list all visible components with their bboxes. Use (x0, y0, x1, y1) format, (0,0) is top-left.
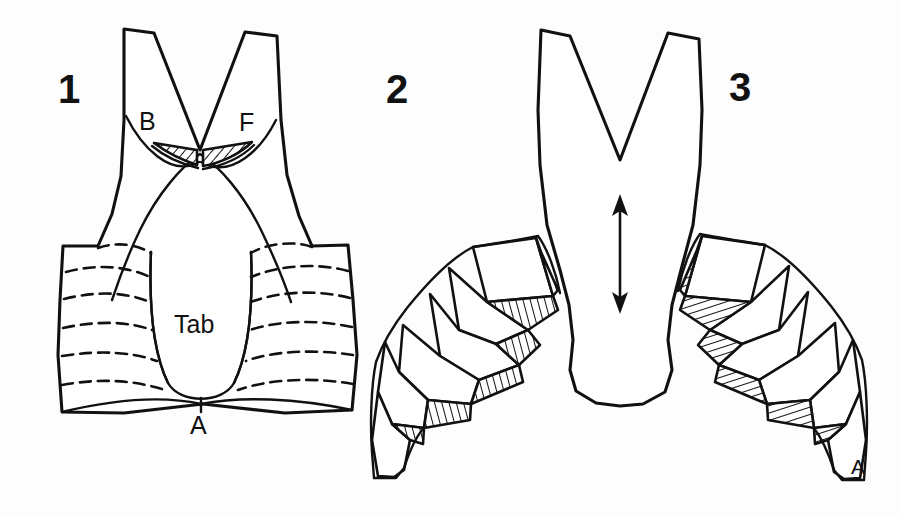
panel-2-number: 2 (386, 67, 408, 111)
pattern-drafting-illustration: 1 B F Tab A 2 3 (0, 0, 902, 515)
diagram-canvas: 1 B F Tab A 2 3 (0, 0, 902, 515)
label-front: F (239, 108, 254, 136)
label-point-a-right: A (851, 455, 865, 478)
label-tab: Tab (174, 310, 214, 338)
label-back: B (139, 107, 156, 135)
panel-1-number: 1 (58, 67, 80, 111)
panel-3-number: 3 (729, 65, 751, 109)
label-point-a-left: A (190, 411, 207, 439)
